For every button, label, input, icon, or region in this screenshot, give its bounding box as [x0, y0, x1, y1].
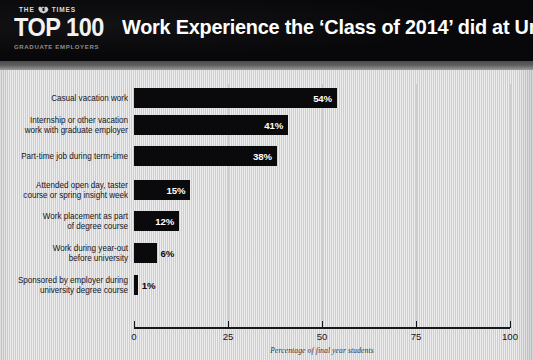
x-tick-0 [134, 321, 135, 328]
gridline-75 [416, 84, 417, 327]
bar-category-label: Work placement as part of degree course [13, 211, 128, 232]
gridline-50 [322, 84, 323, 327]
x-axis-label: Percentage of final year students [134, 346, 510, 355]
x-tick-50 [322, 321, 323, 328]
x-tick-label-100: 100 [502, 331, 518, 342]
bar: 41% [134, 115, 288, 135]
chart-header-banner: THE TIMES TOP 100 GRADUATE EMPLOYERS Wor… [0, 0, 533, 61]
x-tick-label-75: 75 [411, 331, 422, 342]
bar-value-label: 12% [155, 216, 179, 227]
bar-value-label: 54% [313, 93, 337, 104]
bar: 38% [134, 146, 277, 166]
bar: 6% [134, 243, 157, 263]
x-tick-label-25: 25 [223, 331, 234, 342]
chart-page: THE TIMES TOP 100 GRADUATE EMPLOYERS Wor… [0, 0, 533, 360]
bar-category-label: Casual vacation work [13, 93, 128, 103]
bar-category-label: Work during year-out before university [13, 243, 128, 264]
x-tick-25 [228, 321, 229, 328]
gridline-100 [510, 84, 511, 327]
bar-value-label: 41% [264, 120, 288, 131]
x-tick-75 [416, 321, 417, 328]
bar: 12% [134, 211, 179, 231]
masthead-times: TIMES [52, 6, 76, 13]
bar-chart: Casual vacation work54%Internship or oth… [0, 70, 533, 360]
bar-category-label: Attended open day, taster course or spri… [13, 180, 128, 201]
x-tick-label-0: 0 [131, 331, 136, 342]
bar-category-label: Part-time job during term-time [13, 151, 128, 161]
bar: 1% [134, 275, 138, 295]
bar-category-label: Internship or other vacation work with g… [13, 115, 128, 136]
bar: 15% [134, 180, 190, 200]
logo-subtitle-text: GRADUATE EMPLOYERS [14, 43, 113, 50]
x-tick-label-50: 50 [317, 331, 328, 342]
x-tick-100 [510, 321, 511, 328]
header-divider [0, 61, 533, 70]
masthead-the: THE [19, 6, 35, 13]
bar-value-label: 1% [138, 280, 156, 291]
bar-category-label: Sponsored by employer during university … [13, 275, 128, 296]
page-title: Work Experience the ‘Class of 2014’ did … [122, 16, 515, 38]
bar-value-label: 15% [166, 185, 190, 196]
bar-value-label: 6% [157, 248, 175, 259]
bar-value-label: 38% [253, 151, 277, 162]
bar: 54% [134, 88, 337, 108]
logo-top100-text: TOP 100 [14, 15, 110, 40]
times-top100-logo: THE TIMES TOP 100 GRADUATE EMPLOYERS [14, 5, 116, 50]
